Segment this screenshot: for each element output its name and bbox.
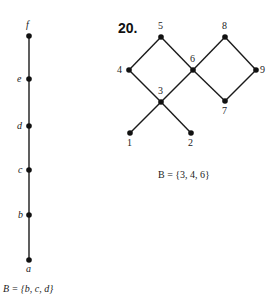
label-1: 1 [127, 137, 132, 148]
vertex-7 [222, 98, 228, 104]
label-c: c [18, 164, 23, 175]
vertex-9 [253, 67, 259, 73]
label-7: 7 [222, 105, 227, 116]
problem-number: 20. [118, 20, 137, 36]
label-9: 9 [260, 64, 265, 75]
vertex-b [26, 212, 32, 218]
vertex-5 [158, 34, 164, 40]
label-8: 8 [222, 20, 227, 31]
vertex-d [26, 123, 32, 129]
edge-3-6 [161, 70, 193, 102]
label-a: a [26, 263, 31, 274]
label-4: 4 [117, 64, 122, 75]
right-diagram-edges [129, 37, 256, 133]
vertex-3 [158, 99, 164, 105]
vertex-1 [127, 130, 133, 136]
label-d: d [17, 120, 23, 131]
edge-7-9 [225, 70, 256, 101]
label-6: 6 [190, 53, 195, 64]
label-b: b [18, 209, 23, 220]
edge-6-7 [193, 70, 225, 101]
vertex-c [26, 167, 32, 173]
vertex-2 [188, 130, 194, 136]
right-diagram-vertices [126, 34, 259, 136]
hasse-diagrams: f e d c b a B = {b, c, d} 20. 5 8 4 6 [0, 0, 280, 308]
label-3: 3 [158, 85, 163, 96]
label-e: e [17, 73, 22, 84]
edge-8-9 [225, 37, 256, 70]
vertex-6 [190, 67, 196, 73]
vertex-e [26, 76, 32, 82]
label-2: 2 [188, 137, 193, 148]
vertex-a [26, 257, 32, 263]
edge-5-6 [161, 37, 193, 70]
edge-4-3 [129, 70, 161, 102]
edge-4-5 [129, 37, 161, 70]
edge-3-2 [161, 102, 191, 133]
vertex-f [26, 33, 32, 39]
vertex-8 [222, 34, 228, 40]
right-caption: B = {3, 4, 6} [158, 169, 210, 180]
label-f: f [26, 19, 30, 30]
vertex-4 [126, 67, 132, 73]
label-5: 5 [158, 20, 163, 31]
edge-6-8 [193, 37, 225, 70]
edge-1-3 [130, 102, 161, 133]
left-caption: B = {b, c, d} [3, 283, 53, 294]
